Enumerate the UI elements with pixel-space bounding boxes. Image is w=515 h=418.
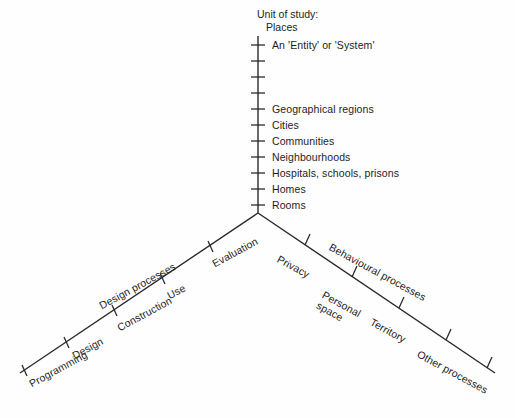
left-axis-line [20,213,258,373]
right-tick [305,234,310,245]
vertical-axis-label: Homes [272,183,306,195]
vertical-axis-label: An 'Entity' or 'System' [272,39,375,51]
vertical-axis-label: Rooms [272,199,306,211]
diagram-title-line-2: Places [266,21,298,34]
vertical-axis-label: Cities [272,119,299,131]
right-tick-end [487,357,492,368]
vertical-axis-label: Neighbourhoods [272,151,350,163]
right-tick [446,329,451,340]
vertical-axis-label: Communities [272,135,334,147]
right-tick [399,297,404,308]
vertical-axis-label: Hospitals, schools, prisons [272,167,399,179]
right-axis-line [258,213,495,373]
diagram-title-line-1: Unit of study: [257,8,318,21]
diagram-canvas: Unit of study: Places An 'Entity' or 'Sy… [0,0,515,418]
vertical-axis-label: Geographical regions [272,103,374,115]
